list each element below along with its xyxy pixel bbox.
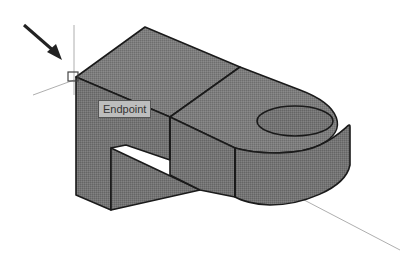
drawing-viewport[interactable]: Endpoint: [0, 0, 410, 261]
3d-solid-model: [76, 27, 350, 210]
model-canvas: [0, 0, 410, 261]
pointer-arrow-icon: [24, 25, 62, 60]
osnap-tooltip: Endpoint: [98, 100, 151, 118]
